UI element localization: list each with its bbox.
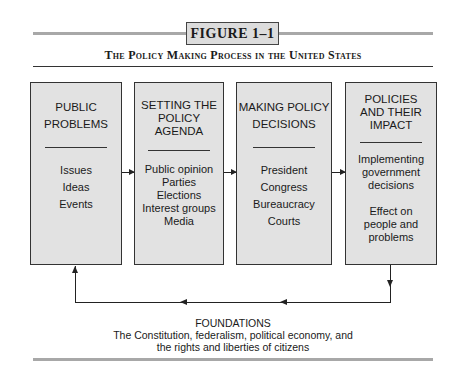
stage-policies-and-impact: POLICIES AND THEIR IMPACT Implementing g… (345, 82, 437, 265)
stage-setting-policy-agenda: SETTING THE POLICY AGENDA Public opinion… (134, 82, 224, 265)
arrow-left-icon (180, 299, 187, 305)
arrow-up-icon (72, 266, 78, 273)
arrow-right-icon (224, 172, 236, 173)
stage-item: Bureaucracy (237, 196, 331, 213)
arrow-right-icon (122, 172, 134, 173)
figure-label: FIGURE 1–1 (186, 22, 279, 45)
stage-public-problems: PUBLIC PROBLEMS Issues Ideas Events (30, 82, 122, 265)
stage-item: decisions (346, 179, 436, 192)
divider (360, 142, 422, 143)
top-rule-right (279, 32, 433, 35)
bottom-rule (33, 358, 433, 361)
arrow-right-icon (332, 172, 345, 173)
stage-heading: SETTING THE POLICY AGENDA (135, 99, 223, 138)
figure-title: The Policy Making Process in the United … (33, 48, 433, 63)
foundations-line-2: the rights and liberties of citizens (33, 341, 433, 353)
foundations-heading: FOUNDATIONS (33, 317, 433, 329)
stage-heading: MAKING POLICY DECISIONS (237, 99, 331, 133)
stage-item: Ideas (31, 179, 121, 196)
stage-item: Issues (31, 162, 121, 179)
stage-making-policy-decisions: MAKING POLICY DECISIONS President Congre… (236, 82, 332, 265)
stage-item: Events (31, 196, 121, 213)
stage-item: Effect on (346, 205, 436, 218)
stage-item: Elections (135, 189, 223, 202)
feedback-line-bottom (75, 302, 391, 303)
stage-item: government (346, 166, 436, 179)
stage-item: Media (135, 215, 223, 228)
foundations-line-1: The Constitution, federalism, political … (33, 329, 433, 341)
stage-item: problems (346, 231, 436, 244)
title-underline (33, 66, 433, 67)
stage-spacer (346, 192, 436, 205)
stage-item: Public opinion (135, 163, 223, 176)
divider (253, 147, 315, 148)
stage-heading: PUBLIC PROBLEMS (31, 99, 121, 133)
top-rule-left (33, 32, 186, 35)
stage-item: Interest groups (135, 202, 223, 215)
stage-item: Parties (135, 176, 223, 189)
arrow-down-icon (387, 280, 393, 287)
arrow-left-icon (280, 299, 287, 305)
divider (148, 150, 210, 151)
divider (45, 147, 107, 148)
stage-heading: POLICIES AND THEIR IMPACT (346, 93, 436, 132)
stage-item: Implementing (346, 153, 436, 166)
stage-item: President (237, 162, 331, 179)
foundations: FOUNDATIONS The Constitution, federalism… (33, 317, 433, 353)
stage-item: Courts (237, 213, 331, 230)
stage-item: Congress (237, 179, 331, 196)
stage-item: people and (346, 218, 436, 231)
